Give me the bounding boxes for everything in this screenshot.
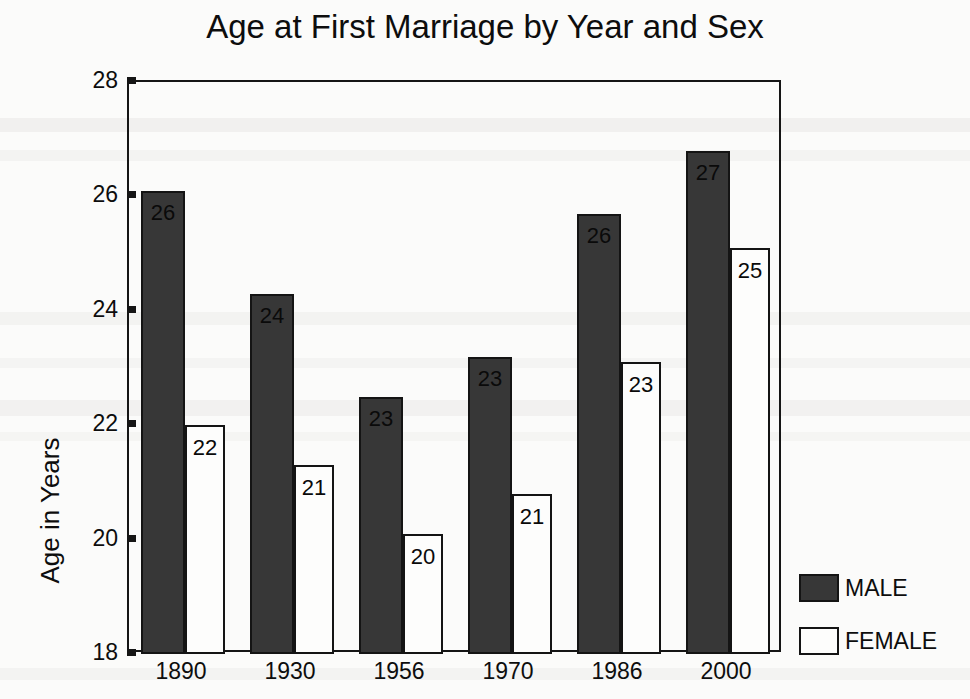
y-axis-tick-label: 22 <box>72 410 118 437</box>
bar-value-label: 21 <box>296 477 332 499</box>
y-axis-tick-label: 28 <box>72 67 118 94</box>
bar-female-1970: 21 <box>512 494 552 654</box>
bar-female-1930: 21 <box>294 465 334 654</box>
chart-title: Age at First Marriage by Year and Sex <box>0 8 970 46</box>
chart-legend: MALEFEMALE <box>799 568 937 674</box>
y-axis-title: Age in Years <box>35 406 66 616</box>
legend-swatch-female <box>799 627 839 655</box>
y-axis-tick-label: 18 <box>72 639 118 666</box>
x-axis-tick-label-1970: 1970 <box>448 658 568 685</box>
y-axis-tick-label: 24 <box>72 296 118 323</box>
bar-female-1986: 23 <box>621 362 661 654</box>
legend-item-female[interactable]: FEMALE <box>799 621 937 661</box>
bar-female-1890: 22 <box>185 425 225 654</box>
legend-label: FEMALE <box>845 628 937 655</box>
plot-area: 262224212320232126232725 <box>127 80 781 652</box>
legend-swatch-male <box>799 574 839 602</box>
bar-value-label: 25 <box>732 260 768 282</box>
bar-value-label: 23 <box>623 374 659 396</box>
bar-value-label: 22 <box>187 437 223 459</box>
bar-value-label: 26 <box>143 202 183 224</box>
bar-value-label: 20 <box>405 546 441 568</box>
y-axis-tick-labels: 282624222018 <box>66 0 118 699</box>
bar-male-1956: 23 <box>359 397 403 654</box>
x-axis-tick-label-1890: 1890 <box>121 658 241 685</box>
bar-male-1890: 26 <box>141 191 185 654</box>
bar-value-label: 23 <box>361 408 401 430</box>
bar-female-2000: 25 <box>730 248 770 654</box>
y-axis-tick-label: 26 <box>72 181 118 208</box>
bar-value-label: 27 <box>688 162 728 184</box>
bar-male-1970: 23 <box>468 357 512 654</box>
chart-page: Age at First Marriage by Year and Sex Ag… <box>0 0 970 699</box>
x-axis-tick-label-1930: 1930 <box>230 658 350 685</box>
bar-value-label: 21 <box>514 506 550 528</box>
bar-male-2000: 27 <box>686 151 730 654</box>
bar-value-label: 23 <box>470 368 510 390</box>
x-axis-tick-label-1986: 1986 <box>557 658 677 685</box>
bar-male-1986: 26 <box>577 214 621 654</box>
legend-label: MALE <box>845 575 908 602</box>
bar-value-label: 26 <box>579 225 619 247</box>
legend-item-male[interactable]: MALE <box>799 568 937 608</box>
x-axis-tick-label-1956: 1956 <box>339 658 459 685</box>
bar-male-1930: 24 <box>250 294 294 654</box>
x-axis-tick-label-2000: 2000 <box>666 658 786 685</box>
bar-female-1956: 20 <box>403 534 443 654</box>
y-axis-tick-label: 20 <box>72 525 118 552</box>
bar-value-label: 24 <box>252 305 292 327</box>
